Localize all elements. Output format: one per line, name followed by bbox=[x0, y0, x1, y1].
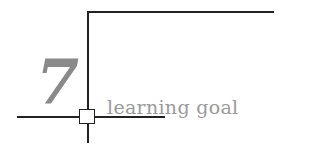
goal-number: 7 bbox=[36, 52, 79, 114]
top-border-line bbox=[87, 11, 274, 13]
learning-goal-label: learning goal bbox=[107, 96, 238, 118]
corner-square-icon bbox=[79, 109, 95, 124]
